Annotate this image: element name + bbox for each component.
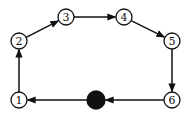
filled-dot-node [87,91,105,109]
node-1: 1 [11,92,27,108]
svg-text:3: 3 [63,11,70,24]
node-2: 2 [11,33,27,49]
node-4: 4 [116,9,132,25]
node-3: 3 [58,9,74,25]
edge-4-to-5 [131,21,164,38]
svg-text:2: 2 [16,35,23,48]
cycle-diagram: 123456 [0,0,189,116]
node-6: 6 [164,92,180,108]
svg-text:1: 1 [16,94,23,107]
svg-text:5: 5 [169,35,176,48]
svg-text:4: 4 [121,11,128,24]
edge-2-to-3 [26,21,58,37]
svg-text:6: 6 [169,94,176,107]
node-5: 5 [164,33,180,49]
